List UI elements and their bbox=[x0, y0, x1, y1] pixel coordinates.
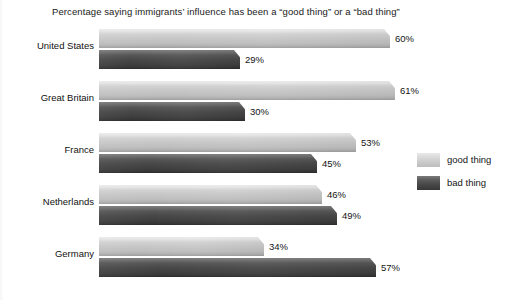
category-label: United States bbox=[0, 40, 94, 52]
bar-fill bbox=[99, 133, 356, 152]
bar-good-thing bbox=[99, 81, 395, 100]
category-label: Great Britain bbox=[0, 92, 94, 104]
bar-group: Germany34%57% bbox=[0, 234, 514, 286]
bar-fill bbox=[99, 81, 395, 100]
value-label-good-thing: 46% bbox=[327, 189, 346, 201]
bar-bad-thing bbox=[99, 154, 317, 173]
category-label: France bbox=[0, 144, 94, 156]
bar-fill bbox=[99, 102, 245, 121]
legend-label-good-thing: good thing bbox=[447, 154, 491, 166]
bar-group: United States60%29% bbox=[0, 26, 514, 78]
bar-fill bbox=[99, 185, 322, 204]
value-label-good-thing: 60% bbox=[395, 33, 414, 45]
value-label-good-thing: 61% bbox=[400, 85, 419, 97]
bar-group: Great Britain61%30% bbox=[0, 78, 514, 130]
value-label-good-thing: 53% bbox=[361, 137, 380, 149]
category-label: Germany bbox=[0, 248, 94, 260]
bar-fill bbox=[99, 237, 264, 256]
bar-bad-thing bbox=[99, 102, 245, 121]
legend-swatch-bad-thing bbox=[417, 176, 440, 190]
bar-fill bbox=[99, 29, 390, 48]
value-label-bad-thing: 57% bbox=[381, 262, 400, 274]
category-label: Netherlands bbox=[0, 196, 94, 208]
bar-good-thing bbox=[99, 29, 390, 48]
value-label-bad-thing: 30% bbox=[250, 106, 269, 118]
value-label-bad-thing: 29% bbox=[245, 54, 264, 66]
value-label-good-thing: 34% bbox=[269, 241, 288, 253]
legend-swatch-good-thing bbox=[417, 153, 440, 167]
bar-good-thing bbox=[99, 133, 356, 152]
bar-fill bbox=[99, 154, 317, 173]
bar-fill bbox=[99, 206, 337, 225]
bar-fill bbox=[99, 50, 240, 69]
bar-bad-thing bbox=[99, 206, 337, 225]
bar-bad-thing bbox=[99, 258, 376, 277]
immigrant-influence-bar-chart: Percentage saying immigrants’ influence … bbox=[0, 0, 514, 300]
legend-label-bad-thing: bad thing bbox=[447, 177, 486, 189]
bar-good-thing bbox=[99, 237, 264, 256]
bar-fill bbox=[99, 258, 376, 277]
chart-title: Percentage saying immigrants’ influence … bbox=[52, 6, 400, 18]
value-label-bad-thing: 49% bbox=[342, 210, 361, 222]
bar-bad-thing bbox=[99, 50, 240, 69]
bar-good-thing bbox=[99, 185, 322, 204]
value-label-bad-thing: 45% bbox=[322, 158, 341, 170]
